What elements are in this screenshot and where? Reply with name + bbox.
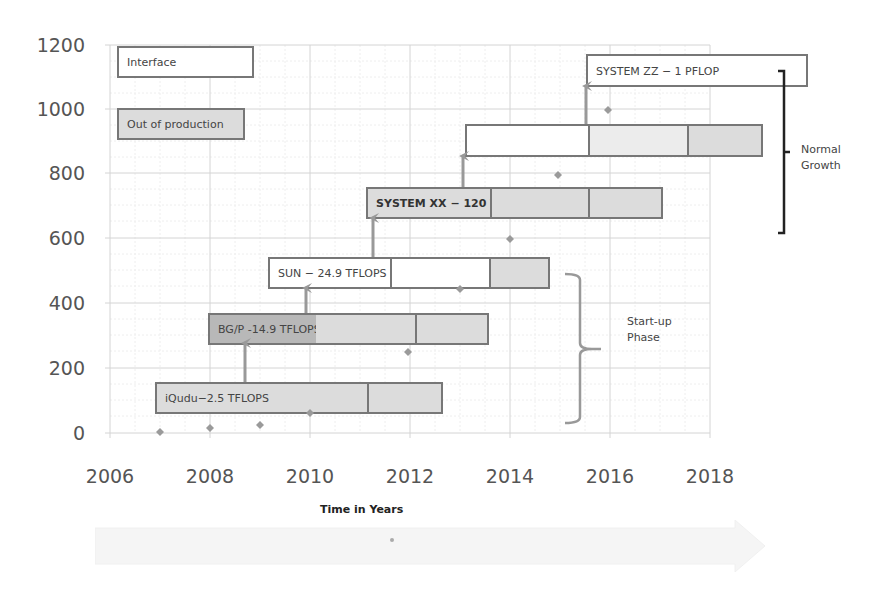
y-tick-800: 800 <box>0 162 85 184</box>
normal-line1: Normal <box>801 142 841 158</box>
legend-interface: Interface <box>117 46 254 78</box>
bar-sun-label: SUN − 24.9 TFLOPS <box>278 267 387 280</box>
bar-system-xx-production-2 <box>490 189 588 217</box>
x-tick-2008: 2008 <box>186 465 234 487</box>
bar-bgp: BG/P -14.9 TFLOPS <box>208 313 489 345</box>
bar-unnamed-interface <box>467 126 588 155</box>
normal-growth-label: Normal Growth <box>801 142 841 174</box>
startup-line1: Start-up <box>627 314 672 330</box>
bar-system-xx-out <box>588 189 661 217</box>
x-axis-label: Time in Years <box>320 503 403 516</box>
bar-unnamed-system <box>465 124 763 157</box>
y-tick-400: 400 <box>0 292 85 314</box>
y-tick-1000: 1000 <box>0 98 85 120</box>
bar-bgp-dark: BG/P -14.9 TFLOPS <box>210 315 316 343</box>
legend-out-of-production-label: Out of production <box>127 118 224 131</box>
x-tick-2018: 2018 <box>686 465 734 487</box>
bar-bgp-production <box>316 315 415 343</box>
bar-iqudu-label: iQudu−2.5 TFLOPS <box>165 392 269 405</box>
y-tick-600: 600 <box>0 227 85 249</box>
legend-out-of-production: Out of production <box>117 108 245 140</box>
bar-sun: SUN − 24.9 TFLOPS <box>268 257 550 289</box>
faded-arrow-icon <box>95 520 765 572</box>
bar-sun-production <box>390 259 489 287</box>
chart-area: 1200 1000 800 600 400 200 0 2006 2008 20… <box>0 0 891 593</box>
plot-grid <box>0 0 891 593</box>
y-tick-0: 0 <box>0 422 85 444</box>
bar-iqudu: iQudu−2.5 TFLOPS <box>155 382 443 414</box>
bar-unnamed-production <box>588 126 687 155</box>
y-tick-1200: 1200 <box>0 34 85 56</box>
bar-sun-interface: SUN − 24.9 TFLOPS <box>270 259 390 287</box>
bar-sun-out <box>489 259 548 287</box>
x-tick-2016: 2016 <box>586 465 634 487</box>
x-tick-2006: 2006 <box>86 465 134 487</box>
bar-iqudu-production: iQudu−2.5 TFLOPS <box>157 384 367 412</box>
startup-line2: Phase <box>627 330 672 346</box>
x-tick-2014: 2014 <box>486 465 534 487</box>
legend-interface-label: Interface <box>127 56 176 69</box>
bar-system-zz: SYSTEM ZZ − 1 PFLOP <box>586 54 808 87</box>
bar-bgp-label: BG/P -14.9 TFLOPS <box>218 323 321 336</box>
x-tick-2010: 2010 <box>286 465 334 487</box>
bar-system-xx-production: SYSTEM XX − 120 TFLOPS <box>368 189 490 217</box>
bar-system-zz-interface: SYSTEM ZZ − 1 PFLOP <box>588 56 806 85</box>
bar-system-xx: SYSTEM XX − 120 TFLOPS <box>366 187 663 219</box>
bar-unnamed-out <box>687 126 761 155</box>
normal-line2: Growth <box>801 158 841 174</box>
x-tick-2012: 2012 <box>386 465 434 487</box>
y-tick-200: 200 <box>0 357 85 379</box>
startup-phase-label: Start-up Phase <box>627 314 672 346</box>
bar-iqudu-out <box>367 384 441 412</box>
bar-system-zz-label: SYSTEM ZZ − 1 PFLOP <box>596 64 719 77</box>
bar-bgp-out <box>415 315 487 343</box>
